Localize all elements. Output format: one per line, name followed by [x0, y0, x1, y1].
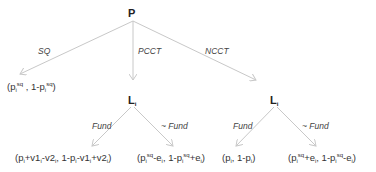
payoff-ncct-fund: (pi, 1-pi) — [222, 152, 255, 164]
tree-edges — [0, 0, 376, 172]
edge-label-sq: SQ — [38, 46, 50, 56]
chance-node-right: Li — [270, 94, 278, 107]
edge-label-notfund-left: ~ Fund — [161, 121, 188, 131]
edge-label-notfund-right: ~ Fund — [302, 121, 329, 131]
edge-label-ncct: NCCT — [205, 46, 229, 56]
payoff-pcct-fund: (pi+v1i-v2i, 1-pi-v1i+v2i) — [15, 152, 111, 164]
payoff-pcct-notfund: (pisq-ei, 1-pisq+ei) — [137, 152, 205, 164]
root-node-p: P — [128, 7, 135, 19]
chance-node-left: Li — [128, 94, 136, 107]
payoff-ncct-notfund: (pisq+ei, 1-pisq-ei) — [288, 152, 356, 164]
edge-label-pcct: PCCT — [138, 46, 161, 56]
payoff-sq: (pisq , 1-pisq) — [7, 81, 56, 93]
edge-label-fund-right: Fund — [233, 121, 252, 131]
edge-label-fund-left: Fund — [92, 121, 111, 131]
game-tree-diagram: P SQ PCCT NCCT (pisq , 1-pisq) Li Li Fun… — [0, 0, 376, 172]
